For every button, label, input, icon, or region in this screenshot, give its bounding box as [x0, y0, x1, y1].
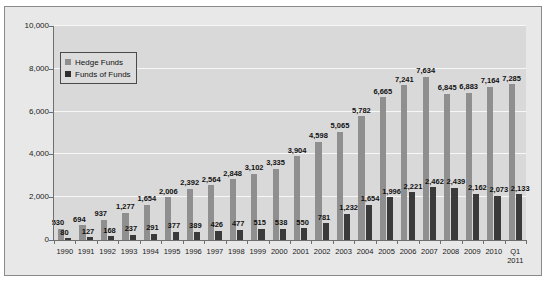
bar-hedge-funds	[509, 84, 515, 240]
bar-hedge-funds	[165, 197, 171, 240]
x-axis-tick-mark	[419, 240, 420, 244]
value-label-hedge-funds: 7,634	[416, 67, 435, 75]
y-axis-tick-mark	[49, 112, 54, 113]
value-label-funds-of-funds: 2,462	[425, 178, 444, 186]
y-axis-tick-label: 4,000	[7, 150, 49, 158]
gridline-6000	[54, 111, 526, 112]
x-axis-tick-mark	[376, 240, 377, 244]
x-axis-tick-label: Q1 2011	[505, 247, 526, 265]
bar-funds-of-funds	[366, 205, 372, 240]
x-axis-tick-label: 2002	[311, 247, 332, 256]
value-label-funds-of-funds: 2,439	[447, 178, 466, 186]
value-label-funds-of-funds: 377	[168, 222, 181, 230]
bar-funds-of-funds	[387, 197, 393, 240]
y-axis-tick-label: 2,000	[7, 193, 49, 201]
bar-funds-of-funds	[451, 188, 457, 240]
value-label-funds-of-funds: 2,162	[468, 184, 487, 192]
x-axis-tick-mark	[97, 240, 98, 244]
bar-hedge-funds	[251, 174, 257, 240]
value-label-hedge-funds: 937	[95, 210, 108, 218]
y-axis-line	[53, 26, 54, 241]
bar-hedge-funds	[187, 189, 193, 240]
value-label-funds-of-funds: 1,654	[361, 195, 380, 203]
value-label-hedge-funds: 6,883	[459, 83, 478, 91]
bar-hedge-funds	[358, 116, 364, 240]
bar-funds-of-funds	[215, 231, 221, 240]
x-axis-tick-mark	[290, 240, 291, 244]
x-axis-tick-label: 1998	[226, 247, 247, 256]
chart-legend: Hedge Funds Funds of Funds	[60, 52, 137, 84]
legend-item-funds-of-funds: Funds of Funds	[65, 68, 131, 80]
x-axis-tick-label: 1994	[140, 247, 161, 256]
value-label-hedge-funds: 1,654	[137, 195, 156, 203]
bar-funds-of-funds	[430, 187, 436, 240]
legend-label-funds-of-funds: Funds of Funds	[75, 70, 131, 79]
value-label-funds-of-funds: 2,221	[404, 183, 423, 191]
value-label-funds-of-funds: 426	[211, 221, 224, 229]
gridline-10000	[54, 25, 526, 26]
x-axis-tick-label: 2000	[269, 247, 290, 256]
value-label-funds-of-funds: 127	[82, 228, 95, 236]
x-axis-tick-label: 1999	[247, 247, 268, 256]
value-label-hedge-funds: 3,102	[245, 164, 264, 172]
x-axis-tick-mark	[333, 240, 334, 244]
value-label-hedge-funds: 6,845	[438, 84, 457, 92]
legend-label-hedge-funds: Hedge Funds	[75, 58, 123, 67]
x-axis-tick-label: 2006	[397, 247, 418, 256]
value-label-hedge-funds: 694	[73, 216, 86, 224]
value-label-hedge-funds: 2,392	[180, 179, 199, 187]
x-axis-tick-mark	[183, 240, 184, 244]
bar-hedge-funds	[273, 169, 279, 240]
legend-swatch-icon-hedge-funds	[65, 59, 71, 65]
value-label-hedge-funds: 2,848	[223, 170, 242, 178]
x-axis-tick-mark	[118, 240, 119, 244]
x-axis-tick-mark	[397, 240, 398, 244]
bar-hedge-funds	[208, 185, 214, 240]
value-label-hedge-funds: 7,285	[502, 75, 521, 83]
x-axis-tick-mark	[140, 240, 141, 244]
bar-funds-of-funds	[494, 196, 500, 240]
y-axis-tick-mark	[49, 69, 54, 70]
bar-hedge-funds	[230, 179, 236, 240]
bar-funds-of-funds	[301, 228, 307, 240]
value-label-funds-of-funds: 781	[318, 214, 331, 222]
x-axis-tick-label: 1991	[75, 247, 96, 256]
value-label-hedge-funds: 7,241	[395, 76, 414, 84]
x-axis-tick-mark	[247, 240, 248, 244]
x-axis-tick-label: 2009	[462, 247, 483, 256]
y-axis-tick-mark	[49, 154, 54, 155]
value-label-funds-of-funds: 515	[253, 219, 266, 227]
x-axis-tick-label: 1992	[97, 247, 118, 256]
value-label-funds-of-funds: 1,996	[382, 188, 401, 196]
x-axis-tick-label: 2004	[354, 247, 375, 256]
legend-swatch-icon-funds-of-funds	[65, 71, 71, 77]
bar-funds-of-funds	[237, 230, 243, 240]
value-label-hedge-funds: 2,564	[202, 176, 221, 184]
x-axis-tick-mark	[526, 240, 527, 244]
value-label-hedge-funds: 3,335	[266, 159, 285, 167]
value-label-funds-of-funds: 389	[189, 222, 202, 230]
x-axis-tick-mark	[311, 240, 312, 244]
bar-funds-of-funds	[173, 232, 179, 240]
x-axis-tick-mark	[269, 240, 270, 244]
y-axis-labels: 02,0004,0006,0008,00010,000	[5, 7, 49, 277]
y-axis-tick-mark	[49, 26, 54, 27]
bar-hedge-funds	[380, 97, 386, 240]
x-axis-tick-label: 1996	[183, 247, 204, 256]
x-axis-tick-mark	[54, 240, 55, 244]
bar-funds-of-funds	[344, 214, 350, 240]
bar-hedge-funds	[487, 87, 493, 240]
value-label-hedge-funds: 5,782	[352, 107, 371, 115]
y-axis-tick-label: 6,000	[7, 108, 49, 116]
bar-hedge-funds	[401, 85, 407, 240]
value-label-funds-of-funds: 477	[232, 220, 245, 228]
value-label-funds-of-funds: 168	[103, 227, 116, 235]
x-axis-tick-mark	[226, 240, 227, 244]
x-axis-tick-mark	[161, 240, 162, 244]
value-label-hedge-funds: 4,598	[309, 132, 328, 140]
chart-figure: 530806941279371681,2772371,6542912,00637…	[4, 6, 542, 276]
bar-hedge-funds	[294, 156, 300, 240]
x-axis-tick-label: 1993	[118, 247, 139, 256]
bar-hedge-funds	[337, 132, 343, 240]
x-axis-tick-label: 2008	[440, 247, 461, 256]
